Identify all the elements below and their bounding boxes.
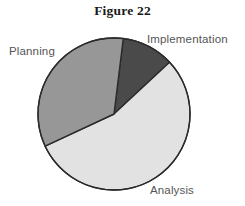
pie-label-analysis: Analysis xyxy=(150,184,194,196)
pie-label-implementation: Implementation xyxy=(147,33,228,45)
pie-chart xyxy=(0,0,245,206)
pie-label-planning: Planning xyxy=(9,45,55,57)
pie-slices xyxy=(38,38,190,190)
figure-container: Figure 22 Implementation Planning Analys… xyxy=(0,0,245,206)
